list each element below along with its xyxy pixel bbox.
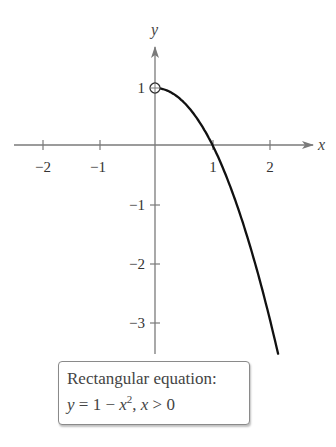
eq-x: x xyxy=(119,395,127,414)
y-axis-label: y xyxy=(149,21,159,39)
eq-equals: = 1 − xyxy=(75,395,120,414)
x-tick-label: −2 xyxy=(35,159,51,175)
y-tick-label: −2 xyxy=(129,256,145,272)
y-tick-label: −1 xyxy=(129,197,145,213)
open-endpoint-marker xyxy=(150,83,160,93)
equation-title: Rectangular equation: xyxy=(67,366,249,392)
eq-sep: , xyxy=(132,395,141,414)
parabola-curve xyxy=(155,88,278,354)
eq-y: y xyxy=(67,395,75,414)
x-axis-label: x xyxy=(317,136,325,153)
equation-box: Rectangular equation: y = 1 − x2, x > 0 xyxy=(58,361,250,425)
x-tick-label: 2 xyxy=(266,159,274,175)
x-tick-label: 1 xyxy=(209,159,217,175)
y-tick-label: −3 xyxy=(129,315,145,331)
eq-condition: > 0 xyxy=(148,395,175,414)
equation-formula: y = 1 − x2, x > 0 xyxy=(67,392,249,418)
x-tick-label: −1 xyxy=(90,159,106,175)
y-tick-label: 1 xyxy=(138,80,146,96)
